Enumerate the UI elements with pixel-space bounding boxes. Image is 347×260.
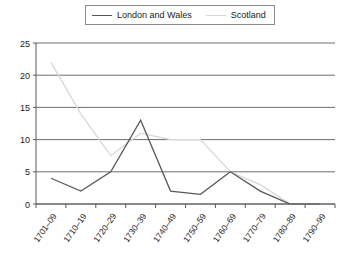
x-tick-label: 1740–49: [151, 211, 178, 244]
x-tick-label: 1720–29: [91, 211, 118, 244]
legend-entry-scotland: Scotland: [206, 6, 266, 24]
chart-plot-area: 0510152025 1701–091710–191720–291730–391…: [0, 0, 347, 260]
x-tick-label: 1710–19: [61, 211, 88, 244]
legend-label-scotland: Scotland: [231, 10, 266, 20]
y-tick-label: 15: [20, 103, 30, 113]
x-tick-label: 1780–89: [271, 211, 298, 244]
legend-entry-london-and-wales: London and Wales: [92, 6, 192, 24]
series-line-scotland: [51, 62, 320, 204]
x-tick-label: 1701–09: [31, 211, 58, 244]
data-line: [51, 62, 320, 204]
y-axis-tick-labels: 0510152025: [20, 39, 36, 210]
y-tick-label: 25: [20, 39, 30, 49]
data-line: [51, 120, 320, 204]
x-tick-label: 1760–69: [211, 211, 238, 244]
series-line-london-and-wales: [51, 120, 320, 204]
x-tick-label: 1730–39: [121, 211, 148, 244]
legend-label-london-and-wales: London and Wales: [117, 10, 192, 20]
x-tick-label: 1750–59: [181, 211, 208, 244]
chart-container: London and Wales Scotland 0510152025 170…: [0, 0, 347, 260]
y-tick-label: 10: [20, 135, 30, 145]
grid-lines: [36, 43, 335, 204]
y-tick-label: 20: [20, 71, 30, 81]
line-swatch-light-icon: [206, 15, 226, 16]
line-swatch-dark-icon: [92, 15, 112, 16]
y-tick-label: 0: [25, 200, 30, 210]
chart-legend: London and Wales Scotland: [85, 5, 275, 25]
y-tick-label: 5: [25, 167, 30, 177]
x-axis-tick-labels: 1701–091710–191720–291730–391740–491750–…: [31, 211, 327, 244]
x-tick-label: 1770–79: [241, 211, 268, 244]
x-tick-label: 1790–99: [301, 211, 328, 244]
